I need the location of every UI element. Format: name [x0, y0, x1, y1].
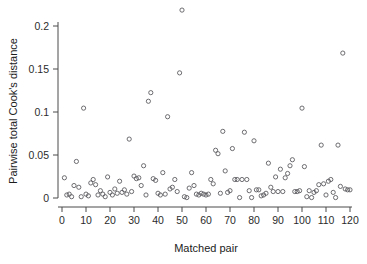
data-point [245, 177, 249, 181]
data-point [178, 71, 182, 75]
data-point [190, 171, 194, 175]
data-point [274, 175, 278, 179]
data-points [62, 8, 352, 200]
data-point [96, 193, 100, 197]
data-point [91, 177, 95, 181]
x-tick-label: 100 [293, 214, 311, 226]
x-tick-label: 50 [176, 214, 188, 226]
data-point [247, 189, 251, 193]
data-point [218, 191, 222, 195]
data-point [142, 164, 146, 168]
data-point [163, 192, 167, 196]
scatter-plot-figure: 00.050.10.150.2 010203040506070809010011… [0, 0, 367, 264]
data-point [115, 191, 119, 195]
x-tick-label: 60 [200, 214, 212, 226]
y-axis-title: Pairwise total Cook's distance [7, 38, 19, 184]
data-point [139, 183, 143, 187]
data-point [106, 175, 110, 179]
data-point [322, 182, 326, 186]
data-point [130, 189, 134, 193]
data-point [302, 165, 306, 169]
data-point [161, 171, 165, 175]
data-point [283, 176, 287, 180]
data-point [266, 161, 270, 165]
data-point [290, 158, 294, 162]
data-point [307, 189, 311, 193]
data-point [216, 152, 220, 156]
plot-canvas: 00.050.10.150.2 010203040506070809010011… [0, 0, 367, 264]
data-point [62, 176, 66, 180]
x-tick-label: 40 [152, 214, 164, 226]
data-point [173, 177, 177, 181]
data-point [288, 164, 292, 168]
data-point [127, 137, 131, 141]
data-point [103, 195, 107, 199]
data-point [276, 189, 280, 193]
data-point [242, 130, 246, 134]
data-point [250, 195, 254, 199]
data-point [175, 189, 179, 193]
data-point [70, 195, 74, 199]
data-point [305, 195, 309, 199]
data-point [341, 51, 345, 55]
data-point [278, 167, 282, 171]
data-point [230, 146, 234, 150]
data-point [120, 190, 124, 194]
x-tick-label: 0 [59, 214, 65, 226]
data-point [286, 171, 290, 175]
data-point [223, 169, 227, 173]
x-tick-label: 70 [224, 214, 236, 226]
data-point [221, 129, 225, 133]
data-point [240, 177, 244, 181]
data-point [122, 188, 126, 192]
x-tick-label: 30 [128, 214, 140, 226]
data-point [125, 192, 129, 196]
data-point [310, 195, 314, 199]
x-tick-label: 120 [341, 214, 359, 226]
data-point [252, 139, 256, 143]
data-point [192, 183, 196, 187]
data-point [180, 8, 184, 12]
x-tick-label: 10 [80, 214, 92, 226]
data-point [146, 99, 150, 103]
data-point [101, 192, 105, 196]
x-axis-title: Matched pair [174, 242, 238, 254]
y-axis: 00.050.10.150.2 [29, 20, 58, 204]
data-point [132, 174, 136, 178]
y-tick-label: 0.1 [34, 106, 49, 118]
data-point [209, 177, 213, 181]
data-point [113, 187, 117, 191]
data-point [334, 195, 338, 199]
x-axis: 0102030405060708090100110120 [58, 207, 359, 226]
data-point [94, 183, 98, 187]
y-tick-label: 0.15 [29, 63, 50, 75]
x-tick-label: 80 [248, 214, 260, 226]
data-point [319, 143, 323, 147]
data-point [77, 185, 81, 189]
x-tick-label: 20 [104, 214, 116, 226]
data-point [74, 159, 78, 163]
data-point [281, 189, 285, 193]
y-tick-label: 0.2 [34, 20, 49, 32]
data-point [72, 183, 76, 187]
data-point [82, 106, 86, 110]
data-point [110, 193, 114, 197]
data-point [144, 193, 148, 197]
data-point [271, 189, 275, 193]
data-point [317, 183, 321, 187]
x-tick-label: 90 [272, 214, 284, 226]
data-point [338, 184, 342, 188]
data-point [166, 115, 170, 119]
data-point [108, 190, 112, 194]
data-point [238, 195, 242, 199]
data-point [331, 190, 335, 194]
data-point [324, 193, 328, 197]
data-point [187, 186, 191, 190]
y-tick-label: 0 [43, 192, 49, 204]
data-point [149, 91, 153, 95]
data-point [269, 185, 273, 189]
data-point [79, 195, 83, 199]
y-tick-label: 0.05 [29, 149, 50, 161]
data-point [211, 182, 215, 186]
data-point [336, 143, 340, 147]
